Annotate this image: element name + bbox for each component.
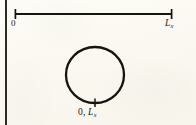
segment-right-label-subscript: x: [171, 22, 174, 29]
segment-right-label: Lx: [165, 19, 173, 29]
circle-bottom-label-subscript: x: [94, 111, 97, 118]
circle-bottom-label-prefix: 0,: [78, 107, 88, 117]
circle-bottom-label: 0, Lx: [78, 108, 97, 118]
figure-panel: 0 Lx 0, Lx: [0, 0, 196, 125]
circle-bottom-label-text: L: [88, 107, 93, 117]
segment-right-label-text: L: [165, 18, 170, 28]
periodic-identification-circle: [66, 47, 124, 103]
segment-left-label-text: 0: [11, 18, 16, 28]
segment-left-label: 0: [11, 19, 16, 28]
